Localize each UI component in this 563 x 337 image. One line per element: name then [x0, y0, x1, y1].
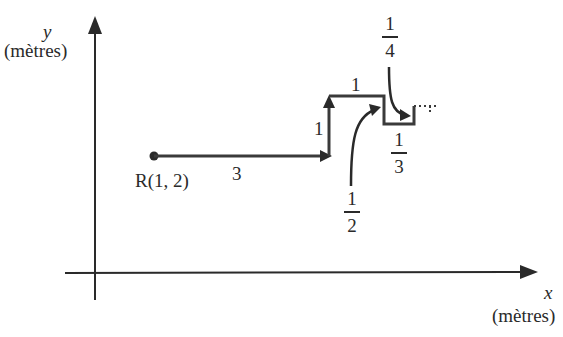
- y-axis-unit: (mètres): [4, 41, 67, 60]
- denominator: 4: [385, 41, 395, 60]
- fraction-bar: [344, 211, 360, 213]
- x-axis-label: x: [544, 283, 552, 302]
- diagram-canvas: [0, 0, 563, 337]
- start-point-label: R(1, 2): [135, 171, 189, 190]
- denominator: 3: [394, 157, 404, 176]
- fraction-quarter: 1 4: [382, 14, 398, 60]
- fraction-third: 1 3: [391, 130, 407, 176]
- y-axis-arrow-icon: [88, 16, 102, 34]
- pointer-quarter-icon: [389, 67, 405, 115]
- denominator: 2: [347, 216, 357, 235]
- y-axis-label: y: [43, 22, 51, 41]
- x-axis-unit: (mètres): [492, 306, 555, 325]
- segment-label-right-1: 1: [351, 75, 361, 94]
- pointer-half-icon: [351, 110, 374, 186]
- fraction-bar: [382, 36, 398, 38]
- numerator: 1: [385, 14, 395, 33]
- segment-label-up-1: 1: [314, 119, 324, 138]
- x-axis-arrow-icon: [520, 265, 538, 279]
- numerator: 1: [394, 130, 404, 149]
- y-axis: [88, 16, 102, 300]
- fraction-bar: [391, 152, 407, 154]
- segment-label-3: 3: [232, 164, 242, 183]
- fraction-half: 1 2: [344, 189, 360, 235]
- x-axis: [65, 265, 538, 279]
- numerator: 1: [347, 189, 357, 208]
